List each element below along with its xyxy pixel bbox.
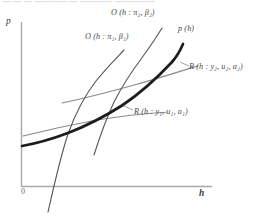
- offer-curve-2-label: O (h : π₂, β₂): [111, 9, 155, 17]
- leader-line-R2: [180, 62, 189, 66]
- curves-group: [22, 28, 198, 212]
- bid-curve-1-label: R (h : y₁, u₁, a₁): [134, 108, 188, 116]
- hedonic-price-figure: — — — ———— — ———— ————— O (h : π₂, β₂) O…: [0, 0, 265, 218]
- plot-canvas: [0, 0, 265, 218]
- y-axis-label: p: [6, 17, 11, 27]
- offer-curve-1-label: O (h : π₁, β₁): [85, 33, 129, 41]
- offer-curve-1: [48, 50, 124, 212]
- offer-curve-2: [94, 28, 162, 155]
- leader-line-R1: [124, 106, 133, 110]
- price-curve-label: p (h): [178, 25, 194, 33]
- bid-curve-2: [62, 66, 198, 103]
- x-axis-label: h: [199, 189, 204, 199]
- origin-label: 0: [21, 188, 25, 196]
- axes-group: [22, 22, 213, 187]
- bid-curve-2-label: R (h : y₂, u₂, a₂): [189, 63, 243, 71]
